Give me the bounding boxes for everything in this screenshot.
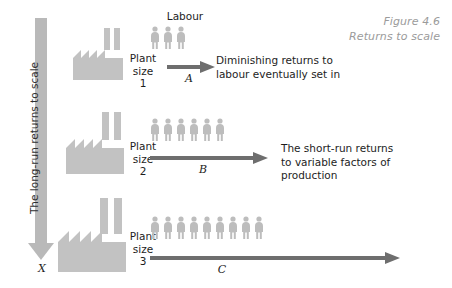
worker-icon — [215, 216, 225, 239]
arrow-letter-a: A — [172, 72, 206, 85]
worker-icon — [228, 216, 238, 239]
figure-caption-title: Returns to scale — [349, 29, 440, 44]
plant-label-line-3: 2 — [120, 165, 166, 178]
worker-group-1 — [150, 26, 189, 49]
figure-caption: Figure 4.6 Returns to scale — [349, 14, 440, 44]
figure-returns-to-scale: Figure 4.6 Returns to scale The long-run… — [0, 0, 452, 288]
axis-end-marker-x: X — [33, 262, 51, 275]
note-row-1: Diminishing returns to labour eventually… — [216, 54, 340, 81]
worker-icon — [215, 118, 225, 141]
note-row-2: The short-run returns to variable factor… — [281, 142, 393, 183]
note-row-2-line-2: to variable factors of — [281, 156, 393, 170]
figure-caption-number: Figure 4.6 — [349, 14, 440, 29]
down-arrow-icon — [28, 243, 54, 260]
worker-icon — [176, 216, 186, 239]
labour-heading: Labour — [150, 10, 220, 22]
worker-icon — [254, 216, 264, 239]
worker-icon — [163, 26, 173, 49]
worker-icon — [176, 26, 186, 49]
worker-icon — [150, 216, 160, 239]
worker-icon — [189, 216, 199, 239]
note-row-1-line-2: labour eventually set in — [216, 68, 340, 82]
plant-size-label-1: Plant size 1 — [120, 52, 166, 90]
right-arrow-icon-c — [150, 251, 400, 265]
arrow-letter-c: C — [205, 263, 239, 276]
arrow-letter-b: B — [186, 163, 220, 176]
worker-icon — [189, 118, 199, 141]
worker-icon — [176, 118, 186, 141]
note-row-2-line-1: The short-run returns — [281, 142, 393, 156]
worker-group-2 — [150, 118, 228, 141]
worker-icon — [163, 118, 173, 141]
note-row-2-line-3: production — [281, 169, 393, 183]
long-run-axis-label: The long-run returns to scale — [28, 43, 40, 233]
factory-icon-plant-2 — [66, 112, 124, 174]
worker-group-3 — [150, 216, 267, 239]
worker-icon — [202, 216, 212, 239]
plant-label-line-2: size — [120, 65, 166, 78]
factory-icon-plant-1 — [73, 28, 123, 80]
worker-icon — [202, 118, 212, 141]
note-row-1-line-1: Diminishing returns to — [216, 54, 340, 68]
worker-icon — [150, 118, 160, 141]
worker-icon — [241, 216, 251, 239]
worker-icon — [163, 216, 173, 239]
worker-icon — [150, 26, 160, 49]
plant-label-line-3: 1 — [120, 77, 166, 90]
factory-icon-plant-3 — [58, 198, 126, 272]
plant-label-line-1: Plant — [120, 52, 166, 65]
